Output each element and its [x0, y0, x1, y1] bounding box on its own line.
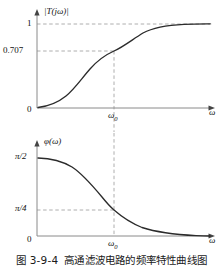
- magnitude-omega0-subscript: 0: [114, 115, 117, 122]
- phase-y-axis-arrow: [34, 140, 39, 147]
- phase-origin-label: 0: [27, 235, 32, 244]
- magnitude-omega0-label: ω0: [108, 111, 118, 122]
- figure-caption: 图 3-9-4高通滤波电路的频率特性曲线图: [0, 252, 223, 266]
- phase-pi4-numerator: π: [15, 203, 20, 213]
- magnitude-tick-one: 1: [27, 19, 32, 28]
- magnitude-x-axis-label: ω: [209, 108, 215, 117]
- magnitude-curve: [38, 24, 210, 108]
- phase-omega0-label: ω0: [108, 239, 118, 250]
- phase-pi2-numerator: π: [15, 151, 20, 161]
- phase-tick-pi-over-2: π/2: [15, 152, 27, 161]
- figure-container: |T(jω)| 1 0.707 0 ω0 ω φ(ω) π/2 π/4 0 ω0…: [0, 0, 223, 266]
- magnitude-origin-label: 0: [27, 105, 32, 114]
- magnitude-y-axis-arrow: [34, 9, 39, 16]
- magnitude-tick-0707: 0.707: [3, 46, 23, 55]
- phase-pi2-denominator: 2: [22, 151, 27, 161]
- phase-x-axis-label: ω: [209, 236, 215, 245]
- magnitude-axis-label: |T(jω)|: [44, 7, 69, 16]
- phase-axis-label: φ(ω): [44, 137, 61, 146]
- phase-pi4-denominator: 4: [22, 203, 27, 213]
- phase-tick-pi-over-4: π/4: [15, 204, 27, 213]
- phase-omega0-subscript: 0: [114, 243, 117, 250]
- figure-caption-text: 高通滤波电路的频率特性曲线图: [64, 254, 207, 266]
- figure-caption-number: 图 3-9-4: [16, 254, 58, 266]
- phase-curve: [38, 158, 210, 236]
